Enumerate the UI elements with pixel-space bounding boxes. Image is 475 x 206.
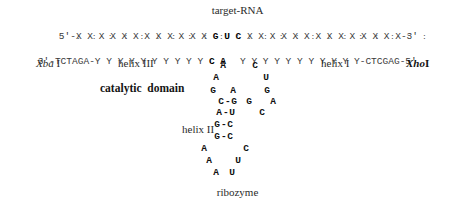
- loop-nt-3-right: U: [227, 167, 237, 178]
- xho-site-label: XhoI: [406, 57, 429, 69]
- core-nt-b-right: U: [261, 72, 271, 83]
- pair-g-c: C: [225, 131, 235, 142]
- loop-nt-1-left: A: [199, 143, 209, 154]
- helix-one-label: helix I: [321, 57, 349, 69]
- core-nt-d-g: G: [244, 96, 254, 107]
- core-nt-c-g-left: G: [208, 85, 218, 96]
- figure-title: target-RNA: [0, 4, 475, 16]
- core-nt-d-a: A: [268, 96, 278, 107]
- loop-nt-3-left: A: [211, 167, 221, 178]
- xba-site-label: Xba I: [36, 57, 60, 69]
- loop-nt-2-left: A: [204, 155, 214, 166]
- core-nt-a-left: A: [218, 60, 228, 71]
- xho-numeral: I: [425, 57, 429, 69]
- core-nt-e-c: C: [257, 107, 267, 118]
- core-nt-c-g-right: G: [262, 85, 272, 96]
- pair-e-u: U: [227, 107, 237, 118]
- ribozyme-diagram: target-RNA 5'-X X X X X X X X X X X X G …: [0, 0, 475, 206]
- core-nt-a-right: C: [250, 60, 260, 71]
- pair-d-g: G: [229, 96, 239, 107]
- base-pair-dots-left: : : : : : : : : : : : :: [60, 32, 240, 41]
- xho-italic: Xho: [406, 57, 425, 69]
- catalytic-domain-label: catalytic domain: [100, 82, 184, 94]
- pair-f-c: C: [225, 119, 235, 130]
- core-nt-c-a: A: [228, 85, 238, 96]
- helix-three-label: helix III: [118, 57, 154, 69]
- helix-two-label: helix II: [182, 123, 214, 135]
- core-nt-b-left: A: [211, 72, 221, 83]
- figure-caption: ribozyme: [0, 186, 475, 198]
- loop-nt-2-right: U: [233, 155, 243, 166]
- loop-nt-1-right: C: [241, 143, 251, 154]
- xho-restriction-sequence: CTCGAG: [365, 56, 399, 67]
- xba-italic: Xba: [36, 57, 54, 69]
- base-pair-dots-right: : : : : : : : : : : : :: [247, 32, 427, 41]
- xba-numeral: I: [54, 57, 60, 69]
